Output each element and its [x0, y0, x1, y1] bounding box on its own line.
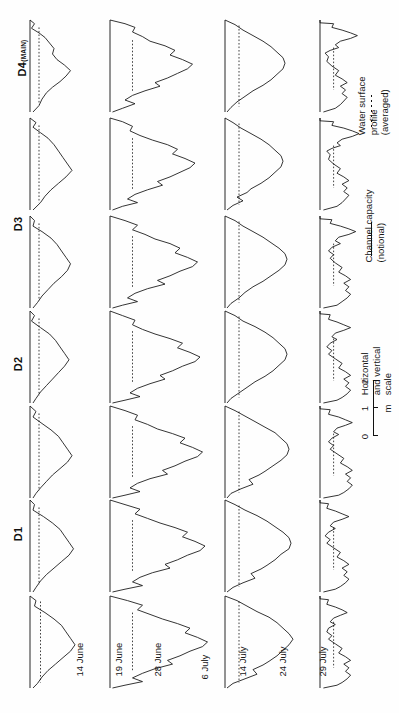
cross-section-plot	[320, 500, 388, 592]
bed-profile-line	[30, 596, 75, 688]
cross-section-plot	[30, 596, 90, 688]
bed-profile-line	[225, 20, 285, 112]
scale-caption-line-3: scale	[382, 279, 394, 395]
scale-caption-line-2: and vertical	[370, 279, 382, 395]
column-header-d2: D2	[12, 336, 24, 392]
cross-section-plot	[30, 406, 90, 498]
bed-profile-line	[110, 311, 200, 403]
bed-profile-line	[110, 500, 205, 592]
cross-section-panel-d2-14-june	[225, 20, 305, 112]
bed-profile-line	[320, 118, 359, 210]
cross-section-panel-d2-29-july	[225, 596, 305, 688]
cross-section-panel-d4-14-july	[30, 406, 90, 498]
bed-profile-line	[110, 20, 193, 112]
bed-profile-line	[320, 311, 351, 403]
bed-profile-line	[320, 20, 357, 112]
bed-profile-line	[225, 596, 293, 688]
scale-tick-0	[373, 435, 378, 436]
legend-channel-capacity-text: Channel capacity (notional)	[363, 147, 386, 263]
bed-profile-line	[225, 118, 283, 210]
legend-line-3: (averaged)	[379, 19, 391, 135]
cross-section-plot	[110, 118, 210, 210]
cross-section-plot	[225, 118, 305, 210]
cross-section-panel-d2-28-june	[225, 216, 305, 308]
bed-profile-line	[30, 216, 71, 308]
legend-line-1: Water surface	[356, 19, 368, 135]
cross-section-panel-d3-24-july	[110, 500, 210, 592]
cross-section-plot	[225, 216, 305, 308]
legend-line-1: Channel capacity	[363, 147, 375, 263]
legend-line-2: profile	[367, 19, 379, 135]
cross-section-panel-d2-19-june	[225, 118, 305, 210]
column-header-d1-label: D1	[12, 527, 24, 542]
cross-section-plot	[225, 311, 305, 403]
cross-section-plot	[30, 216, 90, 308]
bed-profile-line	[110, 406, 203, 498]
cross-section-panel-d3-29-july	[110, 596, 210, 688]
column-header-d4: D4(MAIN)	[16, 30, 28, 86]
cross-section-plot	[30, 500, 90, 592]
cross-section-panel-d2-6-july	[225, 311, 305, 403]
bed-profile-line	[110, 596, 208, 688]
scale-unit-text: m	[382, 405, 393, 413]
cross-section-plot	[110, 311, 210, 403]
cross-section-panel-d4-19-june	[30, 118, 90, 210]
cross-section-panel-d4-6-july	[30, 311, 90, 403]
cross-section-plot	[225, 596, 305, 688]
cross-section-plot	[30, 311, 90, 403]
column-header-d3: D3	[12, 196, 24, 252]
legend-line-2: (notional)	[374, 147, 386, 263]
cross-section-figure: D4(MAIN) D3 D2 D1 14 June 19 June 28 Jun…	[0, 0, 399, 713]
column-header-d2-label: D2	[12, 357, 24, 372]
bed-profile-line	[225, 216, 287, 308]
cross-section-panel-d3-28-june	[110, 216, 210, 308]
cross-section-panel-d3-14-july	[110, 406, 210, 498]
bed-profile-line	[30, 20, 71, 112]
column-header-d4-sublabel: (MAIN)	[20, 40, 27, 62]
cross-section-panel-d4-28-june	[30, 216, 90, 308]
scale-label-2-text: 2	[359, 379, 370, 384]
bed-profile-line	[30, 500, 74, 592]
bed-profile-line	[225, 311, 287, 403]
cross-section-panel-d1-29-july	[320, 596, 388, 688]
cross-section-plot	[110, 406, 210, 498]
bed-profile-line	[110, 216, 198, 308]
bed-profile-line	[30, 118, 72, 210]
cross-section-plot	[30, 118, 90, 210]
cross-section-plot	[320, 596, 388, 688]
bed-profile-line	[320, 596, 351, 688]
cross-section-panel-d3-19-june	[110, 118, 210, 210]
bed-profile-line	[225, 406, 289, 498]
column-header-d3-label: D3	[12, 217, 24, 232]
column-header-d4-label: D4	[16, 62, 28, 77]
cross-section-panel-d4-14-june	[30, 20, 90, 112]
bed-profile-line	[30, 311, 69, 403]
cross-section-panel-d2-24-july	[225, 500, 305, 592]
scale-label-0: 0	[359, 430, 370, 444]
cross-section-panel-d4-29-july	[30, 596, 90, 688]
cross-section-plot	[30, 20, 90, 112]
cross-section-panel-d3-6-july	[110, 311, 210, 403]
bed-profile-line	[110, 118, 195, 210]
column-header-d1: D1	[12, 506, 24, 562]
cross-section-panel-d2-14-july	[225, 406, 305, 498]
legend-water-surface-text: Water surface profile (averaged)	[356, 19, 391, 135]
scale-label-2: 2	[359, 375, 370, 389]
bed-profile-line	[320, 406, 352, 498]
cross-section-plot	[225, 20, 305, 112]
scale-tick-2	[373, 380, 378, 381]
cross-section-plot	[110, 500, 210, 592]
scale-label-1: 1	[359, 402, 370, 416]
cross-section-plot	[225, 406, 305, 498]
scale-unit: m	[382, 402, 393, 416]
bed-profile-line	[225, 500, 291, 592]
bed-profile-line	[30, 406, 72, 498]
cross-section-panel-d4-24-july	[30, 500, 90, 592]
cross-section-plot	[110, 20, 210, 112]
cross-section-plot	[110, 596, 210, 688]
scale-label-0-text: 0	[359, 434, 370, 439]
cross-section-panel-d1-24-july	[320, 500, 388, 592]
scale-tick-1	[373, 407, 378, 408]
bed-profile-line	[320, 500, 349, 592]
cross-section-panel-d3-14-june	[110, 20, 210, 112]
